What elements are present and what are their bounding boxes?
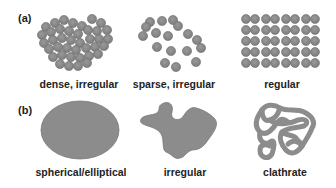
caption-clathrate: clathrate <box>250 166 320 178</box>
regular-grid <box>242 15 320 68</box>
clathrate-shape <box>256 105 313 157</box>
caption-irregular: irregular <box>150 166 220 178</box>
caption-sparse-irregular: sparse, irregular <box>128 78 220 90</box>
elliptical-shape <box>41 101 119 159</box>
caption-dense-irregular: dense, irregular <box>33 78 125 90</box>
dense-irregular-cluster <box>37 14 112 70</box>
irregular-shape <box>140 102 216 158</box>
sparse-irregular-cluster <box>138 15 205 71</box>
caption-spherical-elliptical: spherical/elliptical <box>22 166 140 178</box>
diagram-canvas <box>0 0 336 188</box>
caption-regular: regular <box>245 78 319 90</box>
